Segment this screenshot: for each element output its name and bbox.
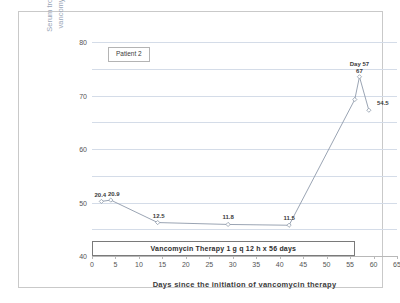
x-axis-tick-label: 5 (114, 261, 118, 268)
data-point-label: 11.8 (222, 214, 233, 220)
y-axis-tick-label: 50 (79, 199, 87, 206)
data-point-marker (156, 220, 160, 224)
data-point-label: 20.4 (95, 192, 107, 198)
x-axis-tick-label: 50 (323, 261, 331, 268)
y-axis-title: Serum trough or non-peak vancomycin leve… (45, 0, 67, 68)
x-axis-tick-mark (303, 256, 304, 259)
x-axis-tick-label: 55 (346, 261, 354, 268)
x-axis-tick-mark (92, 256, 93, 259)
x-axis-tick-label: 10 (135, 261, 143, 268)
series-polyline (101, 77, 368, 225)
chart-figure: 01020304050607080 0510152025303540455055… (0, 0, 400, 303)
x-axis-tick-mark (256, 256, 257, 259)
data-point-marker (109, 198, 113, 202)
day-57-annotation: Day 57 (350, 61, 369, 67)
x-axis-tick-mark (162, 256, 163, 259)
y-axis-tick-label: 40 (79, 253, 87, 260)
x-axis-tick-label: 30 (229, 261, 237, 268)
x-axis-tick-mark (233, 256, 234, 259)
data-point-marker (287, 223, 291, 227)
x-axis-tick-label: 20 (182, 261, 190, 268)
x-axis-title: Days since the initiation of vancomycin … (92, 280, 397, 289)
x-axis-tick-mark (115, 256, 116, 259)
x-axis-tick-label: 25 (205, 261, 213, 268)
y-axis-title-line-1: Serum trough or non-peak (45, 0, 56, 68)
therapy-duration-label: Vancomycin Therapy 1 g q 12 h x 56 days (151, 245, 297, 252)
x-axis-tick-mark (327, 256, 328, 259)
y-axis-tick-label: 70 (79, 92, 87, 99)
series-markers-group (99, 75, 371, 228)
patient-label-box: Patient 2 (108, 47, 150, 62)
data-point-marker (353, 97, 357, 101)
x-axis-tick-mark (374, 256, 375, 259)
data-point-marker (99, 199, 103, 203)
x-axis-line: 0 (92, 256, 397, 257)
data-point-label: 54.5 (377, 100, 389, 106)
data-point-marker (357, 75, 361, 79)
data-point-label: 12.5 (153, 213, 165, 219)
data-point-label: 11.5 (283, 215, 294, 221)
x-axis-tick-label: 65 (393, 261, 400, 268)
series-line-chart (92, 42, 397, 256)
x-axis-tick-mark (350, 256, 351, 259)
x-axis-tick-label: 35 (252, 261, 260, 268)
x-axis-tick-mark (209, 256, 210, 259)
data-point-marker (226, 222, 230, 226)
therapy-duration-box: Vancomycin Therapy 1 g q 12 h x 56 days (92, 241, 355, 256)
x-axis-tick-label: 15 (158, 261, 166, 268)
y-axis-tick-label: 80 (79, 39, 87, 46)
plot-area: 01020304050607080 0510152025303540455055… (92, 42, 397, 256)
x-axis-tick-label: 0 (90, 261, 94, 268)
data-point-marker (367, 108, 371, 112)
y-axis-title-line-2: vancomycin level (mg/L) (56, 0, 67, 68)
x-axis-tick-mark (139, 256, 140, 259)
x-axis-tick-label: 60 (370, 261, 378, 268)
data-point-label: 20.9 (108, 191, 120, 197)
x-axis-tick-label: 40 (276, 261, 284, 268)
data-point-label: 67 (356, 68, 363, 74)
y-axis-tick-label: 60 (79, 146, 87, 153)
x-axis-tick-mark (397, 256, 398, 259)
x-axis-tick-mark (186, 256, 187, 259)
chart-frame: 01020304050607080 0510152025303540455055… (18, 11, 383, 288)
x-axis-tick-label: 45 (299, 261, 307, 268)
x-axis-tick-mark (280, 256, 281, 259)
